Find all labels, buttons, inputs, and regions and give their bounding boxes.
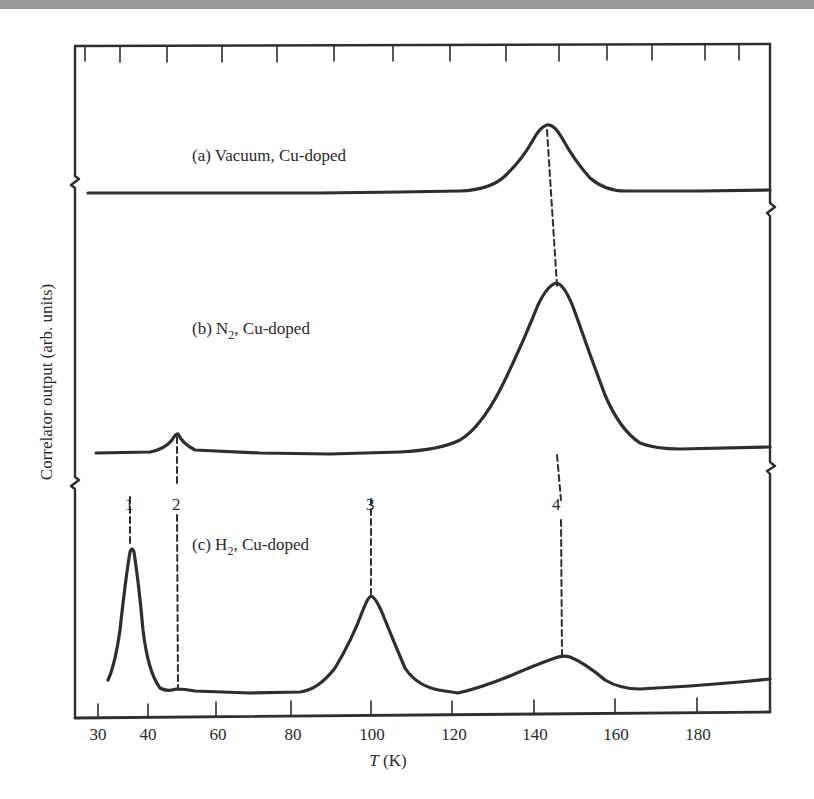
series-a-label: (a) Vacuum, Cu-doped [192,146,347,165]
plot-frame-bottom [75,712,770,718]
x-tick-label: 100 [359,725,385,744]
y-axis-right [767,44,775,712]
chart: (a) Vacuum, Cu-doped (b) N2, Cu-doped (c… [0,0,814,799]
plot-frame-top [75,44,770,46]
x-tick-label: 30 [90,725,107,744]
x-tick-label: 140 [522,725,548,744]
x-tick-label: 40 [140,725,157,744]
x-axis-title: T (K) [369,751,406,770]
x-tick-label: 120 [441,725,467,744]
x-axis-tick-labels: 30 40 60 80 100 120 140 160 180 [90,725,711,744]
peak-label-3: 3 [366,495,375,514]
x-tick-label: 160 [603,725,629,744]
y-axis-left [71,46,79,718]
x-tick-label: 60 [210,725,227,744]
series-b-label: (b) N2, Cu-doped [192,319,310,342]
marker-line-4 [547,130,562,655]
series-b-n2-curve [96,283,770,454]
series-a-vacuum-curve [88,125,770,193]
y-axis-title: Correlator output (arb. units) [37,284,56,480]
series-c-h2-curve [108,549,770,693]
x-tick-label: 180 [685,725,711,744]
peak-label-2: 2 [172,495,181,514]
series-c-label: (c) H2, Cu-doped [192,535,309,558]
peak-label-4: 4 [552,495,561,514]
x-tick-label: 80 [285,725,302,744]
marker-line-2 [177,437,178,688]
peak-label-1: 1 [125,495,134,514]
